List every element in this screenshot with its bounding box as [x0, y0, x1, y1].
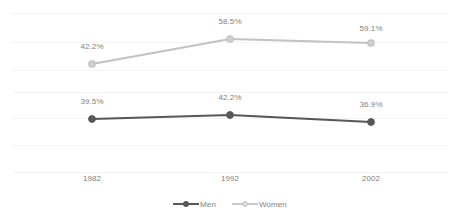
legend-item-women[interactable]: Women — [232, 199, 287, 209]
x-axis-tick-1992: 1992 — [210, 174, 250, 184]
data-point-women-2002 — [368, 40, 374, 46]
legend-marker-men-icon — [173, 199, 199, 209]
series-women — [89, 36, 374, 67]
data-label-women-1982: 42.2% — [72, 42, 112, 52]
chart-plot-area — [0, 0, 460, 223]
data-point-women-1982 — [89, 61, 95, 67]
legend-item-men[interactable]: Men — [173, 199, 216, 209]
data-label-men-2002: 36.9% — [351, 100, 391, 110]
legend-label-women: Women — [259, 200, 287, 209]
data-point-men-2002 — [368, 119, 375, 126]
legend-label-men: Men — [200, 200, 216, 209]
data-point-men-1992 — [227, 112, 234, 119]
legend-marker-women-icon — [232, 199, 258, 209]
line-chart: 42.2% 58.5% 59.1% 39.5% 42.2% 36.9% 1982… — [0, 0, 460, 223]
data-label-men-1992: 42.2% — [210, 93, 250, 103]
data-label-women-1992: 58.5% — [210, 17, 250, 27]
x-axis-tick-2002: 2002 — [351, 174, 391, 184]
chart-legend: Men Women — [0, 197, 460, 211]
x-axis-tick-1982: 1982 — [72, 174, 112, 184]
data-label-men-1982: 39.5% — [72, 97, 112, 107]
data-point-men-1982 — [89, 116, 96, 123]
data-point-women-1992 — [227, 36, 233, 42]
data-label-women-2002: 59.1% — [351, 24, 391, 34]
